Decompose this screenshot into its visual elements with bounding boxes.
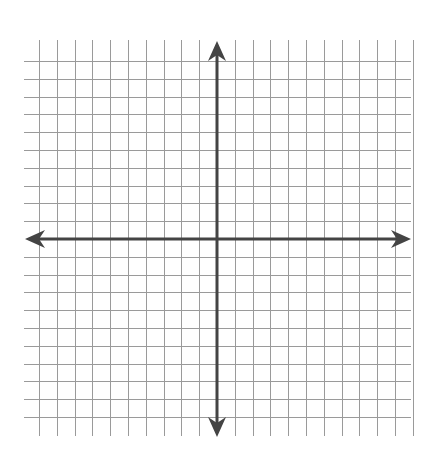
axes bbox=[25, 41, 411, 437]
coordinate-plane bbox=[0, 0, 431, 454]
